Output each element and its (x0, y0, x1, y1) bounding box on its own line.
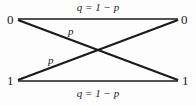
node-input-1: 1 (7, 74, 14, 87)
edge-label-lower-diagonal-probability: p (48, 55, 54, 66)
binary-symmetric-channel-diagram: 0 1 0 1 q = 1 − p q = 1 − p p p (0, 0, 196, 105)
edge-label-top-probability: q = 1 − p (0, 2, 196, 13)
node-input-0: 0 (7, 13, 14, 26)
node-output-0: 0 (181, 13, 188, 26)
edge-label-bottom-probability: q = 1 − p (0, 88, 196, 99)
edge-label-upper-diagonal-probability: p (68, 26, 74, 37)
node-output-1: 1 (182, 74, 189, 87)
